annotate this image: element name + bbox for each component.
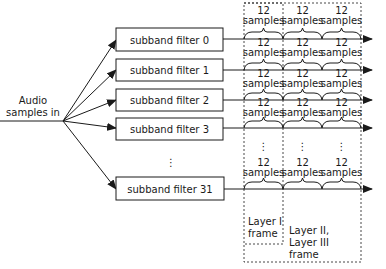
arrow-to-filter-31	[63, 121, 116, 189]
filter-label: subband filter 3	[130, 124, 209, 135]
filter-box-31: subband filter 31	[116, 177, 224, 200]
filter-box-3: subband filter 3	[116, 118, 223, 140]
svg-text:samples: samples	[282, 78, 324, 89]
sample-labels-row-2: 12 samples 12 samples 12 samples	[243, 68, 363, 89]
filter-label: subband filter 1	[130, 65, 209, 76]
subband-filter-diagram: Audio samples in subband filter 0 subban…	[0, 0, 386, 269]
sample-labels-row-3: 12 samples 12 samples 12 samples	[243, 97, 363, 118]
frame-labels: Layer I frame Layer II, Layer III frame	[248, 216, 329, 260]
svg-text:⋮: ⋮	[259, 141, 269, 152]
svg-text:samples: samples	[321, 47, 363, 58]
svg-text:⋮: ⋮	[298, 141, 308, 152]
svg-text:samples: samples	[321, 167, 363, 178]
svg-text:samples: samples	[243, 107, 285, 118]
svg-text:samples: samples	[282, 107, 324, 118]
filter-ellipsis: ⋮	[166, 157, 176, 168]
fan-out-arrows	[63, 40, 116, 189]
layer1-label-line1: Layer I	[248, 216, 282, 227]
layer23-label-line2: Layer III	[289, 237, 329, 248]
arrow-to-filter-0	[63, 40, 116, 121]
svg-text:samples: samples	[243, 78, 285, 89]
sample-ellipses: ⋮ ⋮ ⋮	[259, 141, 347, 152]
svg-text:samples: samples	[282, 15, 324, 26]
layer23-label-line3: frame	[289, 249, 319, 260]
sample-labels-row-0: 12 samples 12 samples 12 samples	[243, 5, 363, 26]
svg-text:samples: samples	[243, 15, 285, 26]
svg-text:samples: samples	[321, 78, 363, 89]
sample-labels-row-31: 12 samples 12 samples 12 samples	[243, 157, 363, 178]
svg-text:samples: samples	[243, 47, 285, 58]
filter-box-0: subband filter 0	[116, 28, 223, 51]
arrow-to-filter-2	[63, 100, 116, 121]
filter-label: subband filter 0	[130, 35, 209, 46]
svg-text:⋮: ⋮	[337, 141, 347, 152]
layer23-label-line1: Layer II,	[289, 225, 329, 236]
svg-text:samples: samples	[282, 167, 324, 178]
filter-label: subband filter 31	[127, 184, 212, 195]
svg-text:samples: samples	[282, 47, 324, 58]
arrow-to-filter-3	[63, 121, 116, 128]
filter-box-1: subband filter 1	[116, 59, 223, 81]
svg-text:samples: samples	[243, 167, 285, 178]
filter-label: subband filter 2	[130, 95, 209, 106]
filter-box-2: subband filter 2	[116, 89, 223, 111]
sample-labels-row-1: 12 samples 12 samples 12 samples	[243, 37, 363, 58]
input-label-line2: samples in	[6, 107, 60, 118]
layer1-label-line2: frame	[248, 228, 278, 239]
arrow-to-filter-1	[63, 70, 116, 121]
input-label-line1: Audio	[19, 95, 47, 106]
svg-text:samples: samples	[321, 107, 363, 118]
svg-text:samples: samples	[321, 15, 363, 26]
